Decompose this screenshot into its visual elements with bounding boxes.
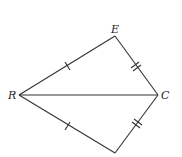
vertex-label-r: R: [7, 89, 16, 102]
kite-diagram: E R C: [0, 0, 182, 157]
vertex-label-e: E: [110, 23, 119, 36]
vertex-label-c: C: [161, 89, 170, 102]
segment-r-bottom: [19, 95, 115, 153]
segment-bottom-c: [115, 95, 158, 153]
segment-ec: [115, 36, 158, 95]
